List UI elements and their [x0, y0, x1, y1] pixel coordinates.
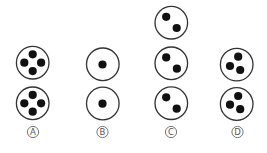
outer-circle-icon [155, 47, 188, 80]
outer-circle-icon [155, 87, 188, 120]
dot-icon [20, 59, 28, 67]
dot-icon [37, 59, 45, 67]
dot-circle-figure [87, 48, 120, 81]
dot-icon [236, 66, 244, 74]
dot-icon [226, 101, 234, 109]
dot-icon [173, 24, 181, 32]
option-label-text: B [100, 127, 106, 137]
dot-icon [29, 50, 37, 58]
dot-circle-figure [16, 87, 49, 120]
option-label-d[interactable]: D [232, 126, 243, 137]
option-a[interactable]: A [16, 46, 49, 137]
option-label-text: D [234, 127, 241, 137]
dot-icon [37, 99, 45, 107]
dot-icon [98, 100, 106, 108]
option-b[interactable]: B [87, 48, 120, 138]
dot-icon [173, 105, 181, 113]
option-label-text: C [168, 127, 174, 137]
option-c[interactable]: C [155, 6, 188, 137]
dot-icon [234, 92, 242, 100]
option-label-text: A [30, 127, 36, 137]
dot-circle-figure [155, 6, 188, 39]
dot-icon [29, 108, 37, 116]
dot-circle-figure [155, 87, 188, 120]
dot-circle-figure [155, 47, 188, 80]
dot-circle-figure [220, 48, 253, 81]
dot-icon [29, 67, 37, 75]
option-d[interactable]: D [220, 48, 253, 137]
option-label-c[interactable]: C [165, 126, 176, 137]
dot-circle-figure [220, 88, 253, 121]
dot-circle-figure [16, 46, 49, 79]
dot-icon [173, 65, 181, 73]
dot-icon [234, 53, 242, 61]
dot-icon [29, 91, 37, 99]
dot-icon [226, 62, 234, 70]
dot-icon [236, 105, 244, 113]
dot-icon [20, 99, 28, 107]
option-label-b[interactable]: B [97, 126, 108, 137]
dot-icon [98, 60, 106, 68]
options-diagram: ABCD [0, 0, 267, 153]
dot-icon [162, 53, 170, 61]
option-label-a[interactable]: A [27, 126, 38, 137]
dot-icon [162, 93, 170, 101]
dot-icon [162, 13, 170, 21]
options-layer: ABCD [16, 6, 253, 137]
dot-circle-figure [87, 87, 120, 120]
outer-circle-icon [155, 6, 188, 39]
